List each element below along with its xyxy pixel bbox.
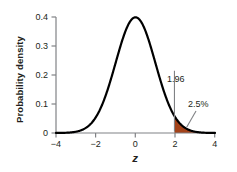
y-axis-ticks [52, 17, 57, 133]
x-tick-label-0: 0 [125, 139, 145, 149]
x-tick-label-4: 4 [205, 139, 225, 149]
y-tick-label-0.3: 0.3 [24, 41, 48, 51]
y-axis-title: Probability density [14, 25, 25, 135]
y-tick-label-0.2: 0.2 [24, 70, 48, 80]
x-tick-label-2: 2 [165, 139, 185, 149]
normal-distribution-figure: 0.4 0.3 0.2 0.1 0 −4 −2 0 2 4 Probabilit… [0, 0, 237, 172]
tail-label-leader-line [187, 111, 197, 128]
x-axis-ticks [56, 133, 215, 138]
y-tick-label-0.1: 0.1 [24, 99, 48, 109]
tail-percent-annotation: 2.5% [188, 99, 209, 109]
critical-value-annotation: 1.96 [167, 74, 185, 84]
normal-curve-path [56, 17, 215, 133]
x-tick-label-neg4: −4 [46, 139, 66, 149]
y-tick-label-0.4: 0.4 [24, 12, 48, 22]
plot-area [0, 0, 237, 172]
x-tick-label-neg2: −2 [86, 139, 106, 149]
x-axis-title: z [125, 152, 145, 164]
y-tick-label-0: 0 [24, 128, 48, 138]
